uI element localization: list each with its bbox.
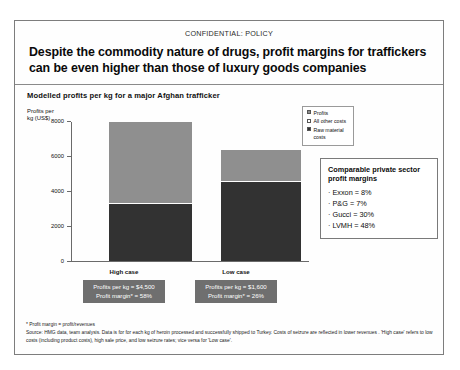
slide-frame: CONFIDENTIAL: POLICY Despite the commodi… — [14, 20, 444, 355]
footnotes: * Profit margin = profit/revenues Source… — [26, 321, 433, 344]
swatch-raw-material-costs-icon — [307, 127, 311, 131]
legend-label-all-other-costs: All other costs — [314, 118, 347, 125]
chart-legend: Profits All other costs Raw material cos… — [302, 106, 354, 147]
callout-high-case: Profits per kg = $4,500 Profit margin* =… — [83, 280, 165, 304]
comparable-margins-title: Comparable private sector profit margins — [328, 165, 430, 184]
footnote-margin-definition: * Profit margin = profit/revenues — [26, 321, 433, 328]
callout-high-case-margin: Profit margin* = 58% — [87, 292, 161, 301]
comparable-margins-box: Comparable private sector profit margins… — [320, 158, 438, 239]
page-title: Despite the commodity nature of drugs, p… — [15, 38, 443, 77]
comparable-margin-gucci: · Gucci = 30% — [328, 209, 430, 220]
callout-low-case: Profits per kg = $1,600 Profit margin* =… — [195, 280, 277, 304]
y-tick-label-0: 0 — [61, 258, 64, 264]
y-axis-line — [71, 122, 72, 262]
swatch-profits-icon — [307, 110, 311, 114]
y-tick-label-6000: 6000 — [51, 153, 64, 159]
callout-low-case-profits: Profits per kg = $1,600 — [199, 283, 273, 292]
y-tick-0: 0 — [67, 261, 71, 262]
legend-label-profits: Profits — [314, 110, 329, 117]
y-tick-6000: 6000 — [67, 156, 71, 157]
swatch-all-other-costs-icon — [307, 119, 311, 123]
bar-segment-raw-material-high-case — [109, 204, 192, 261]
bar-high-case — [109, 122, 192, 261]
y-tick-label-4000: 4000 — [51, 188, 64, 194]
comparable-margin-pg: · P&G = 7% — [328, 198, 430, 209]
bar-segment-profits-high-case — [109, 122, 192, 203]
footnote-source: Source: HMG data, team analysis. Data is… — [26, 329, 433, 344]
y-tick-label-2000: 2000 — [51, 223, 64, 229]
x-axis-label-low-case: Low case — [206, 268, 266, 275]
comparable-margin-exxon: · Exxon = 8% — [328, 187, 430, 198]
bar-low-case — [221, 150, 301, 260]
legend-label-raw-material-costs: Raw material costs — [314, 127, 350, 141]
y-tick-2000: 2000 — [67, 226, 71, 227]
legend-item-raw-material-costs: Raw material costs — [307, 127, 349, 141]
y-tick-4000: 4000 — [67, 191, 71, 192]
x-axis-line — [71, 261, 309, 262]
legend-item-all-other-costs: All other costs — [307, 118, 349, 125]
y-tick-label-8000: 8000 — [51, 118, 64, 124]
y-tick-8000: 8000 — [67, 121, 71, 122]
callout-high-case-profits: Profits per kg = $4,500 — [87, 283, 161, 292]
callout-low-case-margin: Profit margin* = 26% — [199, 292, 273, 301]
classification-banner: CONFIDENTIAL: POLICY — [15, 29, 443, 38]
bar-segment-profits-low-case — [221, 150, 301, 181]
chart-container: Profits perkg (US$) Profits All other co… — [15, 100, 443, 300]
legend-item-profits: Profits — [307, 110, 349, 117]
chart-subtitle: Modelled profits per kg for a major Afgh… — [15, 85, 443, 100]
bar-segment-raw-material-low-case — [221, 182, 301, 261]
comparable-margin-lvmh: · LVMH = 48% — [328, 220, 430, 231]
plot-area: 0 2000 4000 6000 8000 — [71, 122, 301, 262]
x-axis-label-high-case: High case — [94, 268, 154, 275]
